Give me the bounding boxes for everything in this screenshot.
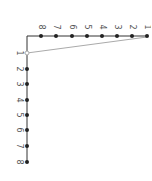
top-node-2 (130, 34, 134, 38)
left-node-7 (25, 144, 29, 148)
top-node-label: 6 (68, 24, 77, 29)
left-node-1 (25, 51, 29, 55)
left-node-label: 3 (15, 81, 24, 86)
edges (27, 36, 147, 162)
left-node-label: 5 (15, 112, 24, 117)
top-node-label: 4 (98, 24, 107, 29)
left-node-label: 2 (15, 66, 24, 71)
top-node-label: 2 (128, 24, 137, 29)
left-node-4 (25, 98, 29, 102)
left-node-5 (25, 113, 29, 117)
top-node-7 (54, 34, 58, 38)
nodes (25, 34, 149, 164)
left-node-6 (25, 128, 29, 132)
top-node-6 (70, 34, 74, 38)
connector-edge (27, 37, 147, 53)
left-node-label: 7 (15, 143, 24, 148)
top-node-8 (39, 34, 43, 38)
top-node-label: 1 (143, 24, 152, 29)
top-node-1 (145, 34, 149, 38)
top-node-label: 3 (113, 24, 122, 29)
left-node-2 (25, 67, 29, 71)
left-node-3 (25, 82, 29, 86)
diagram-canvas: 8765432112345678 (0, 0, 151, 181)
left-node-label: 1 (15, 50, 24, 55)
top-node-label: 7 (52, 24, 61, 29)
top-node-label: 8 (37, 24, 46, 29)
top-node-3 (115, 34, 119, 38)
left-node-8 (25, 160, 29, 164)
left-node-label: 4 (15, 97, 24, 102)
top-node-label: 5 (83, 24, 92, 29)
left-node-label: 6 (15, 127, 24, 132)
top-node-4 (100, 34, 104, 38)
left-node-label: 8 (15, 159, 24, 164)
top-node-5 (85, 34, 89, 38)
